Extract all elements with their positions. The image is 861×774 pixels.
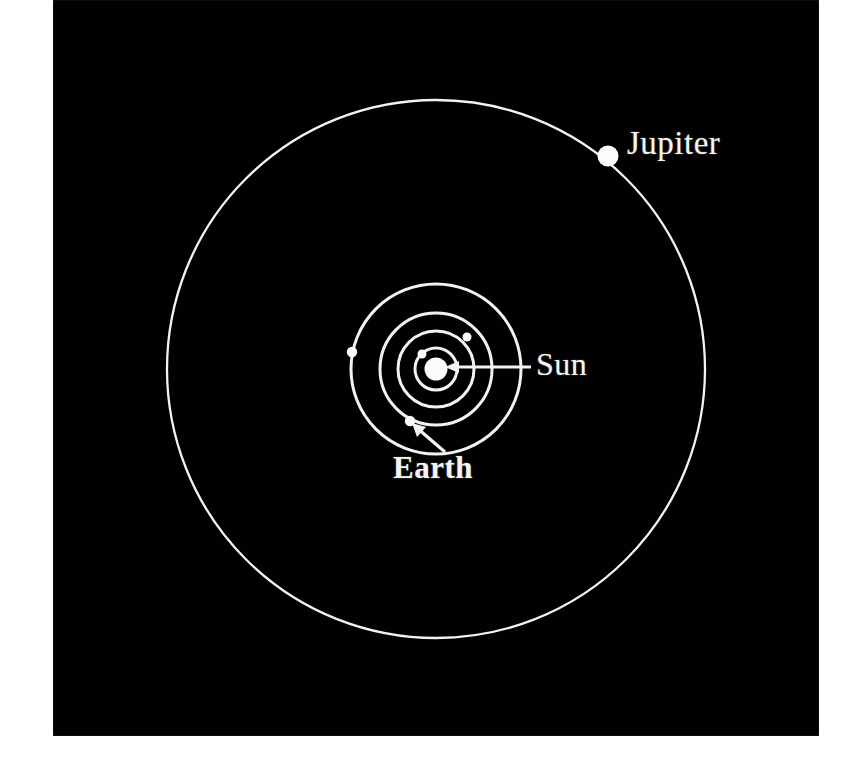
label-earth: Earth: [393, 450, 473, 486]
label-sun: Sun: [536, 346, 587, 383]
diagram-panel: Jupiter Sun Earth: [53, 0, 819, 736]
body-sun: [425, 358, 448, 381]
figure-root: Jupiter Sun Earth: [0, 0, 861, 774]
body-jupiter: [598, 146, 619, 167]
label-jupiter: Jupiter: [627, 125, 720, 162]
body-mars: [347, 347, 357, 357]
body-mercury: [418, 350, 427, 359]
body-venus: [463, 333, 472, 342]
body-earth: [405, 416, 415, 426]
orbit-diagram-svg: [53, 0, 819, 736]
